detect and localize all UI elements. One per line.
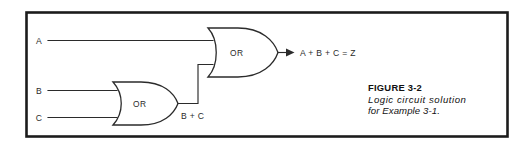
logic-circuit-diagram: OR OR A B C B + C A + B + C = Z	[0, 0, 530, 149]
wire-bc-to-or-gate-output	[178, 65, 213, 104]
caption-title: FIGURE 3-2	[368, 82, 502, 93]
or-gate-bc-label: OR	[133, 99, 147, 109]
figure-container: OR OR A B C B + C A + B + C = Z FIGURE 3…	[0, 0, 530, 149]
output-arrow-icon	[286, 49, 295, 57]
figure-caption: FIGURE 3-2 Logic circuit solution for Ex…	[368, 82, 502, 117]
input-label-c: C	[36, 113, 43, 123]
caption-line-2: for Example 3-1.	[368, 105, 502, 116]
intermediate-label-bc: B + C	[181, 111, 204, 121]
output-expression-label: A + B + C = Z	[300, 48, 356, 58]
caption-line-1: Logic circuit solution	[368, 94, 502, 105]
input-label-b: B	[36, 86, 42, 96]
or-gate-output-label: OR	[230, 48, 244, 58]
input-label-a: A	[36, 36, 42, 46]
